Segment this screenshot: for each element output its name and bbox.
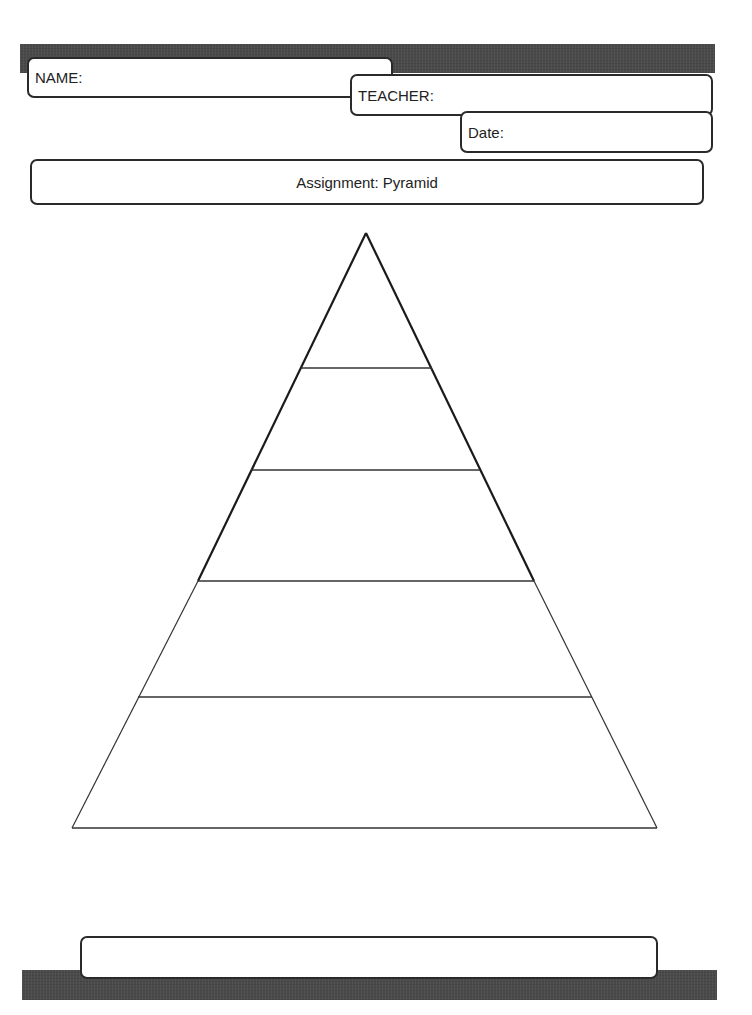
teacher-label: TEACHER: bbox=[358, 87, 434, 104]
pyramid-tier-5[interactable] bbox=[72, 697, 657, 828]
assignment-title: Assignment: Pyramid bbox=[296, 174, 438, 191]
name-field[interactable]: NAME: bbox=[27, 57, 393, 98]
pyramid-tier-4[interactable] bbox=[138, 581, 592, 697]
pyramid-tier-2[interactable] bbox=[251, 368, 480, 470]
teacher-field[interactable]: TEACHER: bbox=[350, 74, 713, 116]
pyramid-tier-1[interactable] bbox=[301, 233, 432, 368]
date-label: Date: bbox=[468, 124, 504, 141]
pyramid-tier-3[interactable] bbox=[198, 470, 534, 581]
name-label: NAME: bbox=[35, 69, 83, 86]
assignment-title-box: Assignment: Pyramid bbox=[30, 159, 704, 205]
footer-input-box[interactable] bbox=[80, 936, 658, 979]
date-field[interactable]: Date: bbox=[460, 111, 713, 153]
